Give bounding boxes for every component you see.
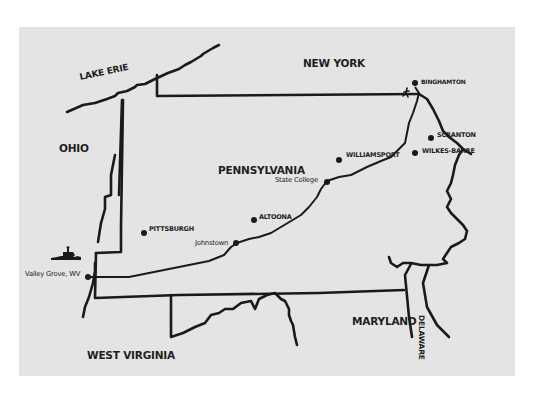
city-dot-scranton: [428, 135, 434, 141]
ohio-river-lower: [83, 263, 95, 317]
label-west-virginia: WEST VIRGINIA: [87, 349, 175, 361]
label-state-college: State College: [275, 176, 318, 184]
city-dot-valley-grove: [85, 274, 91, 280]
city-dot-state-college: [324, 179, 330, 185]
label-pennsylvania: PENNSYLVANIA: [218, 164, 305, 176]
walker-icon: [401, 87, 411, 99]
label-williamsport: WILLIAMSPORT: [346, 151, 400, 159]
map-paper: LAKE ERIE NEW YORK OHIO PENNSYLVANIA MAR…: [19, 27, 515, 376]
label-johnstown: Johnstown: [195, 239, 228, 247]
city-dot-binghamton: [412, 80, 418, 86]
city-dot-altoona: [251, 217, 257, 223]
city-dot-johnstown: [233, 240, 239, 246]
label-wilkes-barre: WILKES-BARRE: [422, 147, 475, 155]
pa-east-border: [389, 94, 467, 267]
label-ohio: OHIO: [59, 142, 89, 154]
label-delaware: DELAWARE: [417, 315, 426, 360]
city-dot-williamsport: [336, 157, 342, 163]
city-dot-wilkes-barre: [412, 150, 418, 156]
label-scranton: SCRANTON: [437, 131, 476, 139]
delaware-coast: [423, 265, 449, 337]
horse-rider-icon: [49, 246, 83, 262]
label-maryland: MARYLAND: [352, 315, 416, 327]
label-new-york: NEW YORK: [303, 57, 365, 69]
pa-erie-triangle-border: [157, 75, 419, 96]
label-valley-grove: Valley Grove, WV: [25, 270, 80, 278]
ohio-river-upper: [98, 155, 115, 242]
maryland-wv-border: [171, 293, 297, 345]
label-altoona: ALTOONA: [259, 213, 292, 221]
label-pittsburgh: PITTSBURGH: [149, 225, 194, 233]
label-binghamton: BINGHAMTON: [421, 78, 466, 85]
city-dot-pittsburgh: [141, 230, 147, 236]
route-trail: [89, 87, 419, 277]
